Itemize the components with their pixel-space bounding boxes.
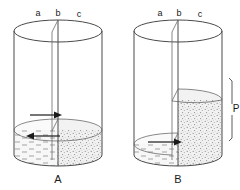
panel-B-caption: B <box>174 173 181 185</box>
panel-B-partition-top-edge <box>172 20 178 32</box>
diagram-canvas: a b c A <box>0 0 240 190</box>
physics-diagram-figure: a b c A <box>0 0 240 190</box>
panel-A-caption: A <box>54 173 62 185</box>
panel-B-right-chamber-fill <box>176 98 224 170</box>
panel-A-right-chamber-fill <box>56 128 104 170</box>
panel-B-label-b: b <box>176 8 181 18</box>
panel-B-label-P: P <box>233 103 240 114</box>
panel-B-partition-upper-surface-edge <box>172 89 178 101</box>
pressure-bracket <box>229 78 232 141</box>
panel-A-partition-top-edge <box>52 20 58 32</box>
panel-B-label-a: a <box>157 8 162 18</box>
panel-A-label-b: b <box>55 8 60 18</box>
panel-A-label-c: c <box>77 9 82 19</box>
panel-A-arrow-upper <box>30 112 62 119</box>
panel-A: a b c A <box>12 8 104 185</box>
panel-A-left-chamber-fill <box>12 128 60 170</box>
panel-B: P a b c B <box>132 8 240 185</box>
panel-B-label-c: c <box>198 9 203 19</box>
panel-A-label-a: a <box>35 8 40 18</box>
